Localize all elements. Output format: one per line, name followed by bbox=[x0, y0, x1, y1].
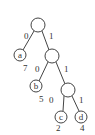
node-leaf-d-weight: 4 bbox=[80, 123, 85, 133]
edge-label-n1-n2: 1 bbox=[64, 64, 69, 74]
edge-n2-c bbox=[63, 96, 64, 111]
node-leaf-b-label: b bbox=[34, 81, 39, 91]
edge-label-root-a: 0 bbox=[24, 31, 29, 41]
edge-label-n1-b: 0 bbox=[35, 64, 40, 74]
node-leaf-c-weight: 2 bbox=[56, 123, 61, 133]
edge-label-n2-d: 1 bbox=[79, 95, 84, 105]
node-leaf-a-label: a bbox=[18, 50, 22, 60]
huffman-tree-diagram: 0 1 0 1 0 1 a 7 b 5 c 2 d 4 bbox=[0, 0, 95, 135]
node-internal-2 bbox=[61, 83, 75, 97]
edge-label-n2-c: 0 bbox=[49, 95, 54, 105]
node-leaf-c-label: c bbox=[59, 112, 63, 122]
edge-label-root-n1: 1 bbox=[49, 31, 54, 41]
node-leaf-b-weight: 5 bbox=[39, 94, 44, 104]
edge-root-n1 bbox=[42, 31, 49, 50]
edge-n1-b bbox=[39, 62, 48, 81]
node-internal-1 bbox=[45, 49, 59, 63]
node-root bbox=[31, 18, 45, 32]
edge-n2-d bbox=[72, 96, 79, 111]
node-leaf-a-weight: 7 bbox=[23, 63, 28, 73]
node-leaf-d-label: d bbox=[79, 112, 84, 122]
